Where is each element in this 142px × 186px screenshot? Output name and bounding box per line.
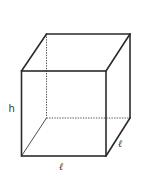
depth-length-label: ℓ (118, 138, 122, 149)
height-label: h (9, 103, 15, 114)
top-right-depth-edge (106, 34, 130, 71)
bottom-right-depth-edge (106, 118, 130, 156)
front-face (22, 71, 107, 156)
cube-diagram: h ℓ ℓ (0, 0, 142, 186)
top-left-depth-edge (22, 34, 47, 71)
bottom-length-label: ℓ (59, 161, 63, 172)
hidden-bottom-left-depth-edge (22, 118, 47, 156)
